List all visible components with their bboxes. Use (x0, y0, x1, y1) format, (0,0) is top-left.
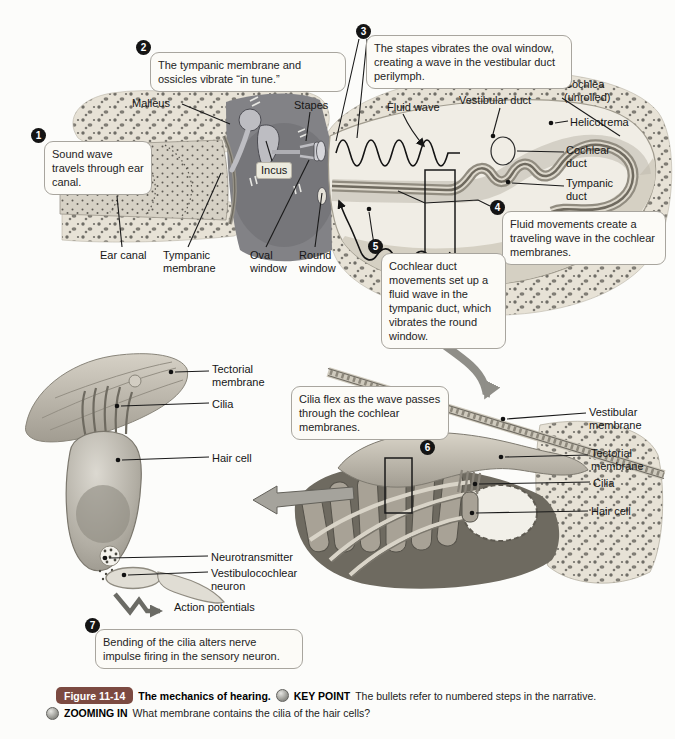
label-hair-cell-left: Hair cell (212, 452, 252, 465)
label-tympanic-duct: Tympanic duct (566, 177, 613, 204)
label-cilia-right: Cilia (593, 477, 614, 490)
label-incus: Incus (256, 162, 292, 179)
key-point-label: KEY POINT (294, 689, 350, 703)
hearing-illustration (0, 0, 675, 739)
callout-step-2: The tympanic membrane and ossicles vibra… (150, 52, 346, 92)
oval-window-shape (317, 141, 326, 161)
figure-title: The mechanics of hearing. (138, 689, 270, 703)
label-round-window: Round window (299, 249, 336, 276)
label-cochlear-duct: Cochlear duct (566, 144, 610, 171)
label-vestibulocochlear-neuron: Vestibulocochlear neuron (211, 567, 297, 594)
label-cilia-left: Cilia (212, 398, 233, 411)
label-neurotransmitter: Neurotransmitter (211, 551, 293, 564)
label-stapes: Stapes (294, 99, 328, 112)
hair-cell-shape (462, 492, 478, 522)
label-ear-canal: Ear canal (100, 249, 146, 262)
malleus-shape (239, 109, 261, 131)
figure-number-badge: Figure 11-14 (56, 687, 133, 704)
key-point-text: The bullets refer to numbered steps in t… (355, 689, 596, 703)
step-badge-5: 5 (368, 239, 383, 254)
callout-step-4: Fluid movements create a traveling wave … (502, 211, 666, 265)
key-point-icon (276, 689, 289, 702)
caption-line-1: Figure 11-14 The mechanics of hearing. K… (56, 687, 675, 704)
step-badge-1: 1 (31, 128, 46, 143)
callout-step-7: Bending of the cilia alters nerve impuls… (95, 629, 303, 669)
label-tympanic-membrane: Tympanic membrane (163, 249, 216, 276)
step-badge-2: 2 (136, 40, 151, 55)
caption-line-2: ZOOMING IN What membrane contains the ci… (46, 706, 675, 720)
label-fluid-wave: Fluid wave (387, 101, 440, 114)
label-tectorial-membrane-left: Tectorial membrane (212, 363, 265, 390)
figure-caption: Figure 11-14 The mechanics of hearing. K… (0, 687, 675, 720)
label-malleus: Malleus (132, 97, 170, 110)
zooming-in-icon (46, 707, 59, 720)
action-potential-arrow (115, 594, 160, 612)
step-badge-3: 3 (356, 24, 371, 39)
label-vestibular-duct: Vestibular duct (459, 94, 531, 107)
zooming-in-text: What membrane contains the cilia of the … (133, 706, 371, 720)
zooming-in-label: ZOOMING IN (64, 706, 128, 720)
step-badge-7: 7 (85, 618, 100, 633)
callout-step-5: Cochlear duct movements set up a fluid w… (381, 253, 506, 349)
callout-step-3: The stapes vibrates the oval window, cre… (366, 35, 572, 89)
figure-11-14-page: Malleus Stapes Incus Fluid wave Vestibul… (0, 0, 675, 739)
label-oval-window: Oval window (250, 249, 287, 276)
label-action-potentials: Action potentials (174, 601, 255, 614)
label-tectorial-membrane-right: Tectorial membrane (591, 447, 644, 474)
step-badge-6: 6 (420, 440, 435, 455)
label-hair-cell-right: Hair cell (591, 505, 631, 518)
callout-step-6: Cilia flex as the wave passes through th… (291, 386, 449, 440)
label-helicotrema: Helicotrema (570, 116, 629, 129)
neuron-shape (106, 568, 160, 589)
step-badge-4: 4 (490, 200, 505, 215)
callout-step-1: Sound wave travels through ear canal. (44, 141, 152, 195)
label-vestibular-membrane: Vestibular membrane (589, 406, 642, 433)
